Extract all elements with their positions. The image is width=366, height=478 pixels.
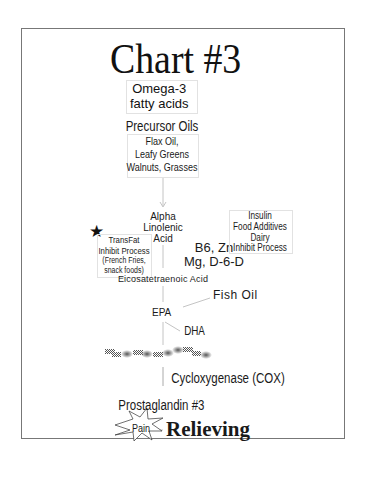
- node-cox: Cycloxygenase (COX): [171, 371, 273, 387]
- node-eicosatetraenoic: Eicosatetraenoic Acid: [117, 274, 209, 284]
- node-transfat: TransFat Inhibit Process: [96, 235, 152, 256]
- node-dha: DHA: [184, 325, 204, 338]
- node-pain: Pain: [127, 422, 155, 434]
- node-fish-oil: Fish Oil: [213, 289, 258, 302]
- node-epa: EPA: [152, 307, 171, 318]
- page-title: Chart #3: [110, 36, 241, 83]
- membrane-band-icon: [105, 346, 212, 359]
- node-inhibitors: Insulin Food Additives Dairy Inhibit Pro…: [229, 211, 291, 254]
- node-transfat-examples: (French Fries, snack foods): [96, 256, 152, 275]
- node-relieving: Relieving: [166, 418, 250, 442]
- node-precursor-sources: Flax Oil, Leafy Greens Walnuts, Grasses: [125, 135, 199, 174]
- node-omega3: Omega-3 fatty acids: [130, 82, 189, 111]
- node-precursor-oils: Precursor Oils: [125, 119, 199, 135]
- node-prostaglandin: Prostaglandin #3: [118, 398, 193, 414]
